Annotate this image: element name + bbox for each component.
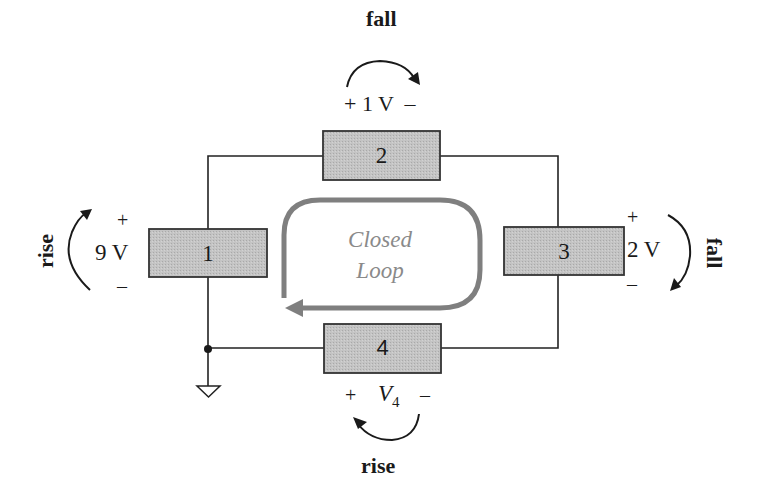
element-1-plus: + bbox=[117, 210, 128, 230]
element-3-direction-word: fall bbox=[703, 233, 725, 273]
element-2-label: 2 bbox=[323, 144, 440, 167]
arc-arrow-element-3-icon bbox=[668, 215, 690, 286]
arc-arrow-element-2-icon bbox=[347, 61, 414, 87]
closed-loop-label-line2: Loop bbox=[320, 259, 440, 282]
closed-loop-arrow-icon bbox=[284, 200, 480, 308]
element-3-plus: + bbox=[627, 207, 638, 227]
ground-icon bbox=[197, 386, 220, 397]
element-1-voltage: 9 V bbox=[95, 241, 128, 264]
arrowhead-element-1-icon bbox=[80, 209, 92, 220]
element-2-voltage: + 1 V – bbox=[344, 93, 416, 115]
arrowhead-element-4-icon bbox=[353, 417, 367, 429]
element-4-plus: + bbox=[345, 385, 356, 405]
element-3-voltage: 2 V bbox=[627, 238, 660, 261]
arrowhead-element-3-icon bbox=[670, 278, 681, 291]
element-1-label: 1 bbox=[149, 242, 267, 265]
element-1-direction-word: rise bbox=[35, 231, 57, 271]
wire-top-right bbox=[440, 156, 558, 227]
element-4-voltage-symbol: V4 bbox=[378, 382, 400, 410]
closed-loop-arrowhead-icon bbox=[285, 299, 303, 317]
element-1-minus: – bbox=[117, 276, 127, 296]
element-4-label: 4 bbox=[324, 337, 441, 359]
element-3-minus: – bbox=[627, 274, 637, 294]
wire-left-top bbox=[208, 156, 323, 229]
arc-arrow-element-1-icon bbox=[69, 213, 90, 290]
arc-arrow-element-4-icon bbox=[358, 414, 419, 440]
wire-right-bottom bbox=[441, 275, 558, 348]
element-3-label: 3 bbox=[504, 240, 624, 263]
circuit-diagram: 1 2 3 4 fall + 1 V – rise + 9 V – + 2 V … bbox=[0, 0, 763, 492]
element-2-direction-word: fall bbox=[366, 8, 397, 30]
junction-dot bbox=[204, 345, 212, 353]
element-4-direction-word: rise bbox=[361, 455, 395, 477]
arrowhead-element-2-icon bbox=[408, 72, 420, 85]
element-4-voltage-subscript: 4 bbox=[392, 394, 400, 410]
closed-loop-label-line1: Closed bbox=[320, 228, 440, 251]
wire-bottom-left bbox=[208, 277, 324, 348]
element-4-voltage-letter: V bbox=[378, 381, 392, 406]
element-4-minus: – bbox=[420, 385, 430, 405]
